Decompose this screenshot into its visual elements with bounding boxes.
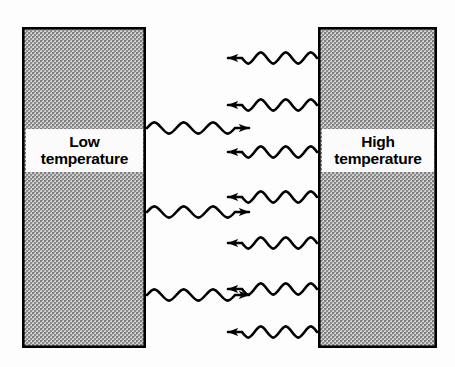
rightward-wave-1 — [147, 122, 249, 133]
leftward-wave-4 — [228, 191, 317, 202]
rightward-wave-3 — [147, 289, 249, 300]
leftward-wave-1 — [228, 52, 317, 63]
radiation-diagram-figure: Low temperature High temperature — [0, 0, 455, 367]
high-temperature-label-line1: High — [324, 133, 432, 150]
low-temperature-label-line2: temperature — [28, 150, 141, 167]
high-temperature-label: High temperature — [322, 129, 434, 172]
leftward-wave-2 — [228, 99, 317, 110]
low-temperature-label-line1: Low — [28, 133, 141, 150]
leftward-wave-3 — [228, 146, 317, 157]
leftward-wave-6 — [228, 283, 317, 294]
rightward-radiation-waves — [147, 122, 249, 300]
high-temperature-label-line2: temperature — [324, 150, 432, 167]
diagram-canvas — [0, 0, 455, 367]
leftward-wave-7 — [228, 326, 317, 337]
leftward-wave-5 — [228, 237, 317, 248]
rightward-wave-2 — [147, 206, 249, 217]
low-temperature-label: Low temperature — [26, 129, 143, 172]
high-temperature-block — [319, 28, 435, 346]
low-temperature-block — [23, 28, 144, 346]
